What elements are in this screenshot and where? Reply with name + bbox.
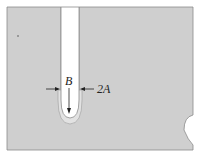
notched-plate-diagram: B 2A <box>0 0 197 160</box>
plate <box>7 7 193 150</box>
notch-slot <box>61 7 79 118</box>
dot-mark <box>17 35 19 37</box>
label-2a: 2A <box>97 82 111 96</box>
label-b: B <box>65 74 73 88</box>
